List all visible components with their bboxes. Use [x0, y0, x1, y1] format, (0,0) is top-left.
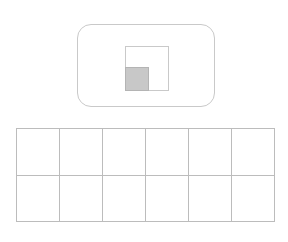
grid-cell[interactable] [60, 129, 103, 176]
grid-cell[interactable] [103, 129, 146, 176]
grid-cell[interactable] [17, 176, 60, 223]
grid-cell[interactable] [189, 176, 232, 223]
grid-cell[interactable] [232, 176, 275, 223]
grid-cell[interactable] [232, 129, 275, 176]
gray-filled-square-shape [125, 67, 149, 91]
grid-cell[interactable] [146, 129, 189, 176]
grid-cell[interactable] [60, 176, 103, 223]
rounded-rectangle-shape [77, 24, 215, 107]
grid-cell[interactable] [146, 176, 189, 223]
grid-cell[interactable] [103, 176, 146, 223]
grid-table [16, 128, 275, 222]
grid-cell[interactable] [17, 129, 60, 176]
figure-canvas [0, 0, 288, 242]
grid-cell[interactable] [189, 129, 232, 176]
